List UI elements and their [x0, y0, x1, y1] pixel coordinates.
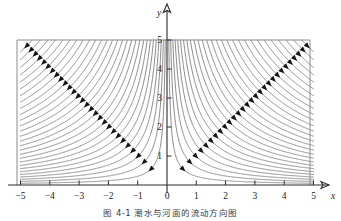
x-tick-label: 2 — [223, 191, 228, 201]
flow-curve — [264, 40, 313, 89]
x-tick-label: −2 — [103, 191, 113, 201]
flow-curve — [171, 40, 314, 181]
x-tick-label: −3 — [74, 191, 84, 201]
flow-curve — [202, 40, 313, 150]
flow-curve — [238, 40, 313, 114]
y-axis-label: y — [156, 8, 162, 18]
x-tick-label: 4 — [282, 191, 287, 201]
figure-caption: 图 4-1 潮水与河面的流动方向图 — [0, 206, 341, 221]
direction-field-plot: −5−4−3−2−101234512345 x y — [0, 0, 341, 221]
x-tick-label: 3 — [253, 191, 258, 201]
x-tick-label: −5 — [15, 191, 25, 201]
y-tick-label: 5 — [157, 35, 162, 45]
flow-curve — [21, 40, 70, 89]
y-tick-label: 3 — [157, 93, 162, 103]
flow-curve — [21, 40, 164, 181]
axes-layer — [8, 4, 329, 193]
x-tick-label: −4 — [45, 191, 55, 201]
x-axis-label: x — [330, 191, 336, 201]
x-tick-label: 0 — [165, 191, 170, 201]
x-tick-label: 1 — [194, 191, 199, 201]
flow-curve — [21, 40, 96, 114]
y-tick-label: 4 — [157, 64, 162, 74]
x-tick-label: −1 — [133, 191, 143, 201]
flow-curve — [21, 40, 132, 150]
y-tick-label: 1 — [157, 151, 162, 161]
figure-root: −5−4−3−2−101234512345 x y 图 4-1 潮水与河面的流动… — [0, 0, 341, 221]
y-tick-label: 2 — [157, 122, 162, 132]
x-tick-label: 5 — [311, 191, 316, 201]
